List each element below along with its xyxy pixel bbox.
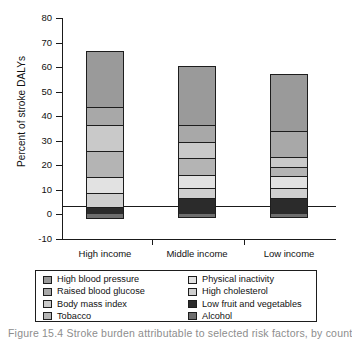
bar-segment (87, 108, 123, 126)
legend-item-label: Body mass index (57, 300, 127, 309)
y-tick (56, 18, 62, 19)
y-tick-label: 0 (16, 209, 52, 219)
bar-segment (179, 189, 215, 199)
legend-swatch-icon (43, 288, 52, 296)
bar-segment (271, 199, 307, 215)
bar-segment (179, 126, 215, 143)
y-tick (56, 67, 62, 68)
x-axis-line (62, 239, 336, 240)
bar-segment (87, 152, 123, 179)
y-tick-label: 70 (16, 38, 52, 48)
bar-segment (271, 189, 307, 199)
legend-item-label: Raised blood glucose (57, 287, 145, 296)
y-tick-label: 10 (16, 185, 52, 195)
legend-swatch-icon (43, 312, 52, 320)
legend-swatch-icon (188, 276, 197, 284)
legend-item-label: Physical inactivity (202, 275, 274, 284)
bar-segment (179, 199, 215, 215)
y-tick-label: 30 (16, 136, 52, 146)
y-tick (56, 214, 62, 215)
legend-item[interactable]: Body mass index (43, 298, 183, 310)
legend-item-label: Tobacco (57, 312, 91, 321)
bar-segment-negative (178, 214, 216, 218)
legend-item[interactable]: High blood pressure (43, 274, 183, 286)
chart-legend: High blood pressureRaised blood glucoseB… (35, 270, 317, 322)
stacked-bar (86, 51, 124, 214)
bar-segment (271, 168, 307, 178)
legend-swatch-icon (43, 276, 52, 284)
legend-item[interactable]: Raised blood glucose (43, 286, 183, 298)
bar-segment (87, 178, 123, 193)
figure-caption: Figure 15.4 Stroke burden attributable t… (8, 327, 352, 339)
bar-segment (271, 158, 307, 168)
legend-item[interactable]: Alcohol (188, 311, 338, 323)
bar-segment-negative (86, 214, 124, 218)
legend-item-label: Low fruit and vegetables (202, 300, 302, 309)
y-tick (56, 141, 62, 142)
bar-segment (271, 132, 307, 158)
stacked-bar (270, 74, 308, 214)
bar-segment (87, 52, 123, 107)
legend-item-label: High blood pressure (57, 275, 139, 284)
bar-segment (87, 194, 123, 209)
figure-root: Percent of stroke DALYs High incomeMiddl… (0, 0, 352, 341)
legend-item[interactable]: Tobacco (43, 311, 183, 323)
legend-column-left: High blood pressureRaised blood glucoseB… (43, 274, 183, 323)
bar-segment (179, 143, 215, 159)
chart-plot-area: Percent of stroke DALYs High incomeMiddl… (0, 0, 352, 262)
x-tick (244, 239, 245, 245)
y-tick-label: 80 (16, 13, 52, 23)
legend-swatch-icon (43, 300, 52, 308)
y-tick (56, 165, 62, 166)
stacked-bar (178, 66, 216, 215)
legend-column-right: Physical inactivityHigh cholesterolLow f… (188, 274, 338, 323)
x-tick-label: Low income (234, 248, 344, 259)
legend-swatch-icon (188, 300, 197, 308)
legend-swatch-icon (188, 288, 197, 296)
bar-segment (271, 75, 307, 131)
bar-segment (87, 126, 123, 152)
legend-item-label: Alcohol (202, 312, 232, 321)
legend-swatch-icon (188, 312, 197, 320)
y-tick-label: 50 (16, 87, 52, 97)
bar-segment (179, 67, 215, 126)
bar-segment (271, 177, 307, 188)
y-tick (56, 43, 62, 44)
y-tick-label: 60 (16, 62, 52, 72)
y-tick-label: 20 (16, 160, 52, 170)
legend-item[interactable]: Physical inactivity (188, 274, 338, 286)
legend-item[interactable]: Low fruit and vegetables (188, 298, 338, 310)
y-tick (56, 239, 62, 240)
y-tick (56, 92, 62, 93)
x-tick (152, 239, 153, 245)
y-tick-label: 40 (16, 111, 52, 121)
bar-segment-negative (270, 214, 308, 217)
y-tick-label: -10 (16, 234, 52, 244)
legend-item-label: High cholesterol (202, 287, 268, 296)
y-tick (56, 116, 62, 117)
bar-segment (179, 159, 215, 176)
bar-segment (179, 176, 215, 189)
y-tick (56, 190, 62, 191)
legend-item[interactable]: High cholesterol (188, 286, 338, 298)
